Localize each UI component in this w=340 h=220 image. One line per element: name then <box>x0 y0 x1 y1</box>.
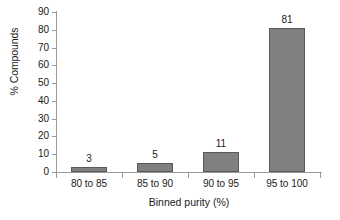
y-tick-label: 0 <box>43 166 49 177</box>
y-tick-label: 90 <box>38 6 49 17</box>
bar <box>203 152 239 172</box>
y-tick-label: 20 <box>38 130 49 141</box>
x-category-label: 85 to 90 <box>122 178 188 190</box>
x-axis-title: Binned purity (%) <box>56 196 322 208</box>
y-tick-label: 50 <box>38 77 49 88</box>
x-axis-line <box>56 172 322 173</box>
y-tick-label: 30 <box>38 113 49 124</box>
bar-value-label: 81 <box>267 14 307 25</box>
bar <box>269 28 305 172</box>
x-category-label: 90 to 95 <box>188 178 254 190</box>
x-category-label: 80 to 85 <box>56 178 122 190</box>
y-tick-label: 80 <box>38 24 49 35</box>
y-tick-label: 40 <box>38 95 49 106</box>
bar-value-label: 5 <box>135 149 175 160</box>
y-tick-label: 60 <box>38 59 49 70</box>
y-axis-title: % Compounds <box>9 4 20 120</box>
bar-value-label: 11 <box>201 138 241 149</box>
bar <box>71 167 107 172</box>
y-tick-label: 70 <box>38 42 49 53</box>
y-tick-label: 10 <box>38 148 49 159</box>
bar <box>137 163 173 172</box>
plot-area <box>56 12 320 172</box>
x-tick-mark <box>320 173 321 178</box>
bar-value-label: 3 <box>69 153 109 164</box>
bar-chart: % Compounds 0102030405060708090 351181 8… <box>0 0 340 220</box>
x-category-label: 95 to 100 <box>254 178 320 190</box>
